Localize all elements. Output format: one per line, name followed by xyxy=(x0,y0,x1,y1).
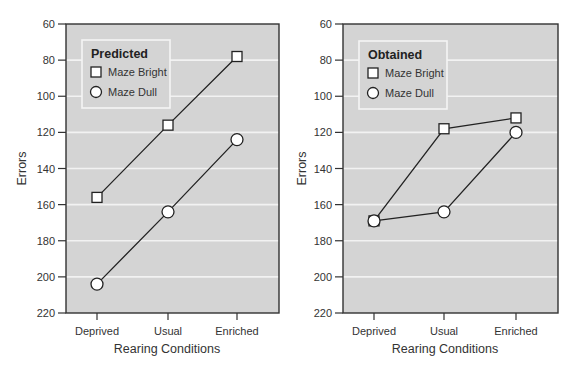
y-tick-label: 160 xyxy=(37,199,55,211)
legend-label: Maze Bright xyxy=(385,67,444,79)
data-point-circle xyxy=(162,206,174,218)
y-tick-label: 180 xyxy=(37,235,55,247)
y-tick-label: 120 xyxy=(37,126,55,138)
x-axis-title: Rearing Conditions xyxy=(392,342,498,356)
data-point-square xyxy=(232,52,242,62)
data-point-square xyxy=(163,120,173,130)
x-tick-label: Deprived xyxy=(75,325,119,337)
y-tick-label: 100 xyxy=(37,90,55,102)
y-tick-label: 60 xyxy=(43,18,55,30)
y-tick-label: 220 xyxy=(37,307,55,319)
y-tick-label: 220 xyxy=(314,307,332,319)
legend-title: Predicted xyxy=(91,47,148,61)
legend: ObtainedMaze BrightMaze Dull xyxy=(359,41,447,109)
legend-square-icon xyxy=(368,68,378,78)
chart-panel-obtained: 6080100120140160180200220DeprivedUsualEn… xyxy=(295,18,558,356)
data-point-circle xyxy=(510,126,522,138)
y-axis-title: Errors xyxy=(295,151,309,185)
y-axis-title: Errors xyxy=(15,151,29,185)
x-tick-label: Enriched xyxy=(215,325,258,337)
x-tick-label: Enriched xyxy=(494,325,537,337)
y-tick-label: 140 xyxy=(314,163,332,175)
x-axis-title: Rearing Conditions xyxy=(114,342,220,356)
legend-square-icon xyxy=(91,67,101,77)
data-point-square xyxy=(92,192,102,202)
legend: PredictedMaze BrightMaze Dull xyxy=(82,40,170,108)
data-point-square xyxy=(439,124,449,134)
x-tick-label: Usual xyxy=(154,325,182,337)
data-point-circle xyxy=(231,134,243,146)
chart-panel-predicted: 6080100120140160180200220DeprivedUsualEn… xyxy=(15,18,279,356)
y-tick-label: 100 xyxy=(314,90,332,102)
legend-circle-icon xyxy=(91,87,102,98)
y-tick-label: 60 xyxy=(320,18,332,30)
legend-circle-icon xyxy=(368,88,379,99)
figure: 6080100120140160180200220DeprivedUsualEn… xyxy=(0,0,577,374)
x-tick-label: Usual xyxy=(430,325,458,337)
y-tick-label: 160 xyxy=(314,199,332,211)
data-point-circle xyxy=(368,215,380,227)
y-tick-label: 180 xyxy=(314,235,332,247)
y-tick-label: 140 xyxy=(37,163,55,175)
data-point-square xyxy=(511,113,521,123)
data-point-circle xyxy=(91,278,103,290)
y-tick-label: 120 xyxy=(314,126,332,138)
data-point-circle xyxy=(438,206,450,218)
legend-title: Obtained xyxy=(368,48,422,62)
legend-label: Maze Bright xyxy=(108,66,167,78)
y-tick-label: 80 xyxy=(43,54,55,66)
x-tick-label: Deprived xyxy=(352,325,396,337)
legend-label: Maze Dull xyxy=(108,86,157,98)
y-tick-label: 200 xyxy=(37,271,55,283)
legend-label: Maze Dull xyxy=(385,87,434,99)
y-tick-label: 200 xyxy=(314,271,332,283)
y-tick-label: 80 xyxy=(320,54,332,66)
